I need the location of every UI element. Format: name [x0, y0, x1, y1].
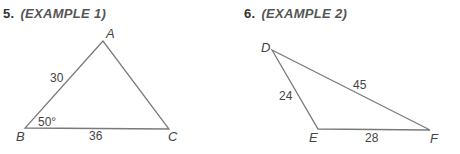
figures: A B C 30 36 50° D E F 24 45 28: [0, 0, 460, 154]
vertex-f: F: [430, 131, 439, 146]
vertex-e: E: [309, 130, 318, 145]
side-de-length: 24: [279, 89, 293, 103]
triangle-abc: A B C 30 36 50°: [16, 26, 178, 144]
vertex-c: C: [168, 129, 178, 144]
side-ab-length: 30: [50, 71, 64, 85]
side-bc-length: 36: [89, 129, 103, 143]
vertex-b: B: [16, 129, 25, 144]
triangle-def: D E F 24 45 28: [261, 40, 439, 146]
vertex-d: D: [261, 40, 270, 55]
side-df-length: 45: [353, 78, 367, 92]
angle-b-measure: 50°: [38, 115, 56, 129]
vertex-a: A: [105, 26, 115, 41]
side-ef-length: 28: [365, 131, 379, 145]
